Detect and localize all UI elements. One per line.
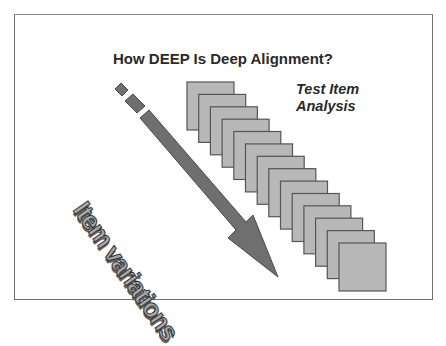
test-item-square <box>339 243 386 291</box>
arrow-dash-1 <box>115 83 128 96</box>
test-item-stack <box>187 82 386 291</box>
arrow-dash-2 <box>125 94 145 113</box>
